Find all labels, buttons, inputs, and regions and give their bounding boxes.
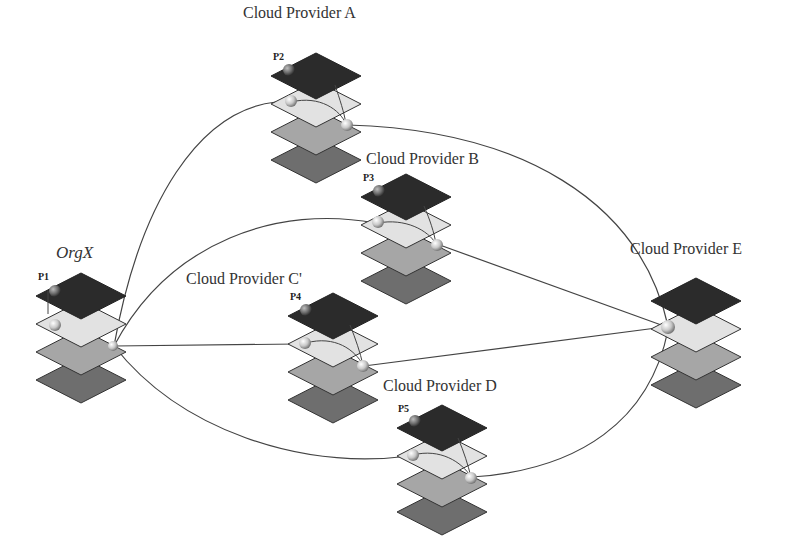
- plabel-p4: P4: [290, 291, 301, 302]
- node-ball-top: [300, 304, 312, 316]
- node-ball-out: [108, 341, 118, 351]
- edge-orgx-to-cpC: [114, 344, 298, 346]
- plabel-p5: P5: [398, 403, 409, 414]
- layer-1: [397, 405, 487, 451]
- plabel-p1: P1: [38, 271, 49, 282]
- node-ball-out: [465, 472, 477, 484]
- edge-cpD-to-cpE: [472, 330, 668, 477]
- stack-cloud-provider-b[interactable]: [361, 174, 451, 304]
- stack-cloud-provider-d[interactable]: [397, 405, 487, 535]
- plabel-p3: P3: [363, 172, 374, 183]
- node-ball-top: [49, 285, 61, 297]
- node-ball-mid: [372, 216, 384, 228]
- node-ball-mid: [49, 319, 61, 331]
- label-cloud-provider-d: Cloud Provider D: [383, 377, 497, 395]
- edge-orgx-to-cpA: [114, 102, 276, 346]
- edge-cpC-to-cpE: [364, 327, 664, 366]
- node-ball-mid: [285, 95, 297, 107]
- node-ball-out: [431, 239, 443, 251]
- stack-orgx[interactable]: [36, 273, 126, 403]
- node-ball-top: [373, 185, 385, 197]
- label-orgx: OrgX: [56, 243, 93, 263]
- node-ball-out: [357, 360, 369, 372]
- plabel-p2: P2: [273, 51, 284, 62]
- label-cloud-provider-b: Cloud Provider B: [366, 150, 479, 168]
- label-cloud-provider-c-prime: Cloud Provider C': [186, 270, 302, 288]
- node-ball-top: [283, 64, 295, 76]
- diagram-canvas: [0, 0, 793, 554]
- node-ball-out: [341, 119, 353, 131]
- layer-1: [36, 273, 126, 319]
- layer-1: [271, 53, 361, 99]
- node-ball-mid: [407, 449, 419, 461]
- layer-1: [288, 293, 378, 339]
- node-ball-in: [661, 320, 675, 334]
- label-cloud-provider-a: Cloud Provider A: [243, 4, 356, 22]
- stack-cloud-provider-c-prime[interactable]: [288, 293, 378, 423]
- layer-1: [361, 174, 451, 220]
- node-ball-mid: [299, 337, 311, 349]
- node-ball-top: [409, 415, 421, 427]
- label-cloud-provider-e: Cloud Provider E: [630, 240, 742, 258]
- layer-1: [651, 278, 741, 324]
- stack-cloud-provider-a[interactable]: [271, 53, 361, 183]
